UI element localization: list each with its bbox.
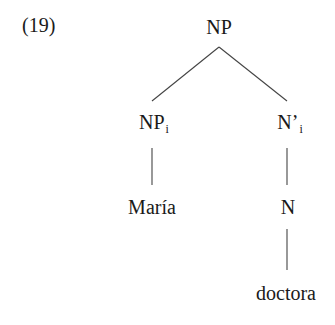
tree-edges xyxy=(0,0,335,325)
node-label: N’ xyxy=(277,111,298,133)
node-n: N xyxy=(281,196,295,218)
node-root-np: NP xyxy=(206,16,232,38)
edge-np-to-nbar xyxy=(219,47,287,101)
index-subscript: i xyxy=(166,122,169,136)
node-label: NP xyxy=(206,16,232,38)
index-subscript: i xyxy=(299,122,302,136)
terminal-maria: María xyxy=(128,196,176,218)
node-nbar-i: N’i xyxy=(277,111,302,140)
node-np-i: NPi xyxy=(139,111,169,140)
terminal-doctora: doctora xyxy=(256,282,316,304)
node-label: NP xyxy=(139,111,165,133)
example-number: (19) xyxy=(22,14,55,36)
edge-np-to-npi xyxy=(152,47,219,101)
